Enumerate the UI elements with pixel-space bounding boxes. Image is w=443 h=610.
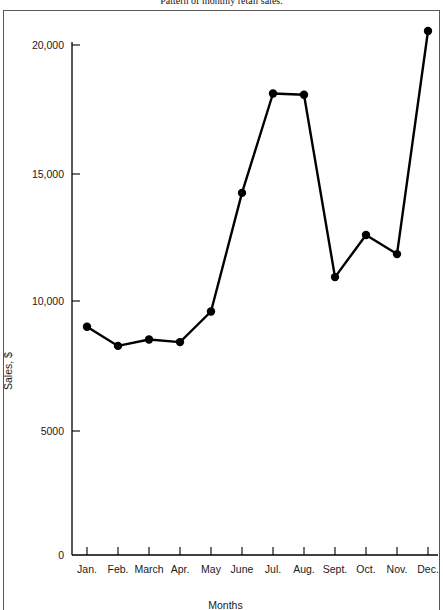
sales-data-markers — [83, 27, 432, 350]
y-axis-ticks — [72, 45, 80, 431]
x-axis-ticks — [87, 547, 428, 555]
data-point-march — [145, 335, 153, 343]
line-chart-canvas — [4, 11, 441, 610]
data-point-nov — [393, 250, 401, 258]
data-point-feb — [114, 342, 122, 350]
figure-frame: 20,000 15,000 10,000 5000 0 Jan. Feb. Ma… — [3, 10, 440, 610]
figure-caption: Pattern of monthly retail sales. — [0, 0, 443, 6]
x-tick-label-dec: Dec. — [405, 563, 443, 575]
data-point-aug — [300, 91, 308, 99]
sales-line-series — [87, 31, 428, 346]
data-point-dec — [424, 27, 432, 35]
y-tick-label-5000: 5000 — [6, 425, 64, 437]
y-tick-label-15000: 15,000 — [6, 168, 64, 180]
y-axis-title: Sales, $ — [2, 341, 14, 401]
x-axis-title: Months — [4, 599, 443, 610]
y-tick-label-10000: 10,000 — [6, 295, 64, 307]
y-tick-label-20000: 20,000 — [6, 39, 64, 51]
y-tick-label-0: 0 — [6, 549, 64, 561]
data-point-june — [238, 189, 246, 197]
data-point-may — [207, 307, 215, 315]
data-point-apr — [176, 338, 184, 346]
data-point-oct — [362, 231, 370, 239]
data-point-jul — [269, 89, 277, 97]
data-point-sept — [331, 273, 339, 281]
figure-page: Pattern of monthly retail sales. — [0, 0, 443, 610]
data-point-jan — [83, 323, 91, 331]
